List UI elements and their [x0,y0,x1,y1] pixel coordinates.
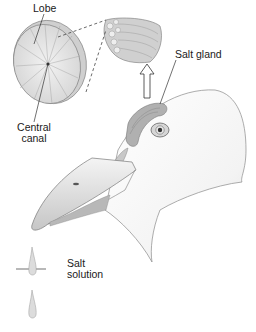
label-salt-gland: Salt gland [175,49,222,60]
droplet-2 [29,290,36,318]
eye [151,123,169,137]
nostril [73,183,79,185]
label-central-canal: Central canal [14,122,54,144]
droplet-1 [29,247,36,275]
lobe-cross-section [4,12,95,112]
gland-bundle-cutaway [104,18,162,63]
label-lobe: Lobe [33,3,56,14]
salt-droplets [29,247,36,318]
label-salt-solution-line2: solution [67,269,103,280]
label-central-canal-line2: canal [14,133,54,144]
magnify-arrow [140,64,154,98]
label-salt-solution: Salt solution [67,258,103,280]
